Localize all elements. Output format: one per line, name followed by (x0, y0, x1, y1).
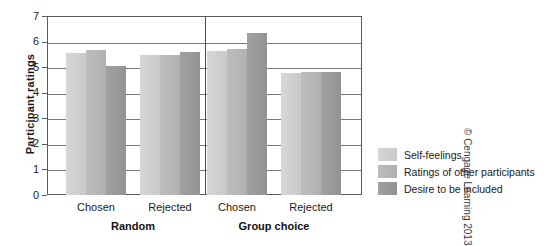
legend-label: Desire to be included (404, 183, 503, 195)
y-axis-tick-mark (42, 144, 47, 145)
y-axis-tick-label: 0 (15, 190, 39, 201)
y-axis-tick-label: 4 (15, 87, 39, 98)
y-axis-tick-mark (42, 195, 47, 196)
y-axis-tick-mark (42, 67, 47, 68)
y-axis-tick-mark (42, 93, 47, 94)
x-axis-group-label: Random (63, 220, 203, 232)
y-axis-tick-mark (42, 169, 47, 170)
legend-item: Desire to be included (378, 180, 535, 197)
x-axis-tick-label: Rejected (266, 201, 356, 213)
plot-area (47, 16, 362, 195)
y-axis-tick-mark (42, 42, 47, 43)
legend-item: Ratings of other participants (378, 163, 535, 180)
y-axis-tick-label: 1 (15, 164, 39, 175)
chart-legend: Self-feelingsRatings of other participan… (378, 146, 535, 197)
legend-swatch-icon (378, 148, 397, 161)
y-axis-tick-mark (42, 16, 47, 17)
x-axis-group-label: Group choice (204, 220, 344, 232)
y-axis-tick-label: 3 (15, 113, 39, 124)
y-axis-tick-label: 7 (15, 11, 39, 22)
group-divider (205, 17, 206, 194)
y-axis-tick-label: 2 (15, 138, 39, 149)
bar-chart-figure: Participant ratings 76543210 ChosenRejec… (0, 0, 560, 246)
legend-swatch-icon (378, 182, 397, 195)
legend-swatch-icon (378, 165, 397, 178)
legend-label: Self-feelings (404, 149, 462, 161)
y-axis-tick-mark (42, 118, 47, 119)
legend-item: Self-feelings (378, 146, 535, 163)
copyright-credit: © Cengage Learning 2013 (462, 128, 473, 246)
y-axis-tick-label: 6 (15, 36, 39, 47)
y-axis-tick-label: 5 (15, 62, 39, 73)
